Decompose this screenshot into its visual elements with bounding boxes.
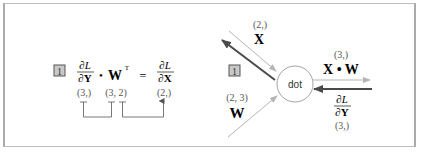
fraction-numerator: ∂L: [159, 59, 171, 71]
shape-dl-dy: (3,): [77, 87, 91, 99]
transpose-mark: T: [125, 64, 130, 72]
dot-node-label: dot: [288, 79, 302, 90]
shape-upstream: (3,): [335, 120, 349, 132]
right-panel: dot 1 (2,) X (2, 3) W (3,) X • W ∂L ∂Y (…: [222, 19, 372, 137]
shape-w-t: (3, 2): [105, 87, 127, 99]
fraction-denominator: ∂Y: [335, 106, 348, 118]
step-badge-right: 1: [229, 65, 240, 77]
fraction-denominator: ∂Y: [78, 72, 91, 84]
shape-dl-dx: (2,): [157, 87, 171, 99]
dimension-bracket-match: [80, 102, 115, 117]
fraction-dl-dy-right: ∂L ∂Y: [334, 93, 351, 118]
dot-operator: •: [99, 69, 103, 81]
shape-x: (2,): [253, 19, 267, 31]
diagram-canvas: 1 ∂L ∂Y • W T = ∂L ∂X (3,) (3, 2) (2,): [0, 0, 422, 153]
dot-node: dot: [277, 66, 313, 102]
dimension-bracket-result: [119, 101, 164, 117]
fraction-dl-dy-left: ∂L ∂Y: [77, 59, 94, 84]
shape-w: (2, 3): [226, 92, 248, 104]
label-w: W: [230, 105, 245, 121]
step-badge-left-label: 1: [57, 66, 62, 77]
left-panel: 1 ∂L ∂Y • W T = ∂L ∂X (3,) (3, 2) (2,): [54, 59, 174, 117]
shape-output: (3,): [334, 49, 348, 61]
fraction-dl-dx: ∂L ∂X: [157, 59, 174, 84]
step-badge-left: 1: [54, 65, 65, 77]
fraction-numerator: ∂L: [336, 93, 348, 105]
fraction-numerator: ∂L: [79, 59, 91, 71]
label-output: X • W: [323, 62, 359, 77]
equals-sign: =: [140, 69, 147, 83]
matrix-w: W: [108, 68, 122, 83]
label-x: X: [254, 32, 264, 47]
step-badge-right-label: 1: [232, 66, 237, 77]
fraction-denominator: ∂X: [158, 72, 171, 84]
